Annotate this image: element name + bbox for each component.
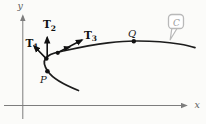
tangent-vectors-figure: x y P Q T1 T2 T3 C (0, 0, 206, 124)
point-Q-label: Q (128, 28, 136, 39)
vector-T1-label-sub: 1 (33, 42, 38, 51)
vector-T2-label-sub: 2 (51, 24, 56, 33)
vector-T2-label: T2 (43, 18, 56, 33)
vector-T1-label: T1 (26, 37, 39, 52)
curve-label-callout: C (169, 15, 184, 40)
vector-T3-label-sub: 3 (92, 34, 97, 43)
vector-T3-arrow (58, 40, 82, 52)
tangent-point-2-dot (56, 51, 60, 55)
callout-tail (170, 29, 177, 40)
tangent-point-1-dot (44, 56, 48, 60)
curve-C-label: C (173, 18, 180, 28)
y-axis-label: y (17, 0, 24, 11)
vector-T3-label-base: T (84, 29, 92, 41)
vector-T2-label-base: T (43, 18, 51, 30)
point-P-label: P (39, 74, 47, 85)
point-Q-dot (132, 39, 136, 43)
vector-T3-label: T3 (84, 29, 97, 44)
figure-canvas: x y P Q T1 T2 T3 C (0, 0, 206, 124)
curve-points (44, 39, 136, 73)
x-axis-label: x (195, 99, 201, 110)
vector-T1-label-base: T (26, 37, 34, 49)
